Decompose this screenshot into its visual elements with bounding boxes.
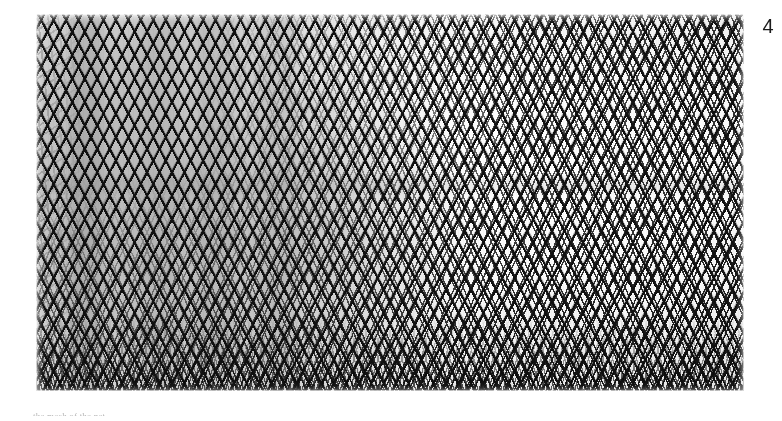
figure-number: 4: [757, 13, 779, 39]
scanned-page: 4 the mesh of the net: [0, 0, 782, 421]
caption-fragment: the mesh of the net: [33, 411, 211, 416]
netting-photograph: [36, 14, 744, 391]
scan-grain-texture: [36, 14, 744, 391]
